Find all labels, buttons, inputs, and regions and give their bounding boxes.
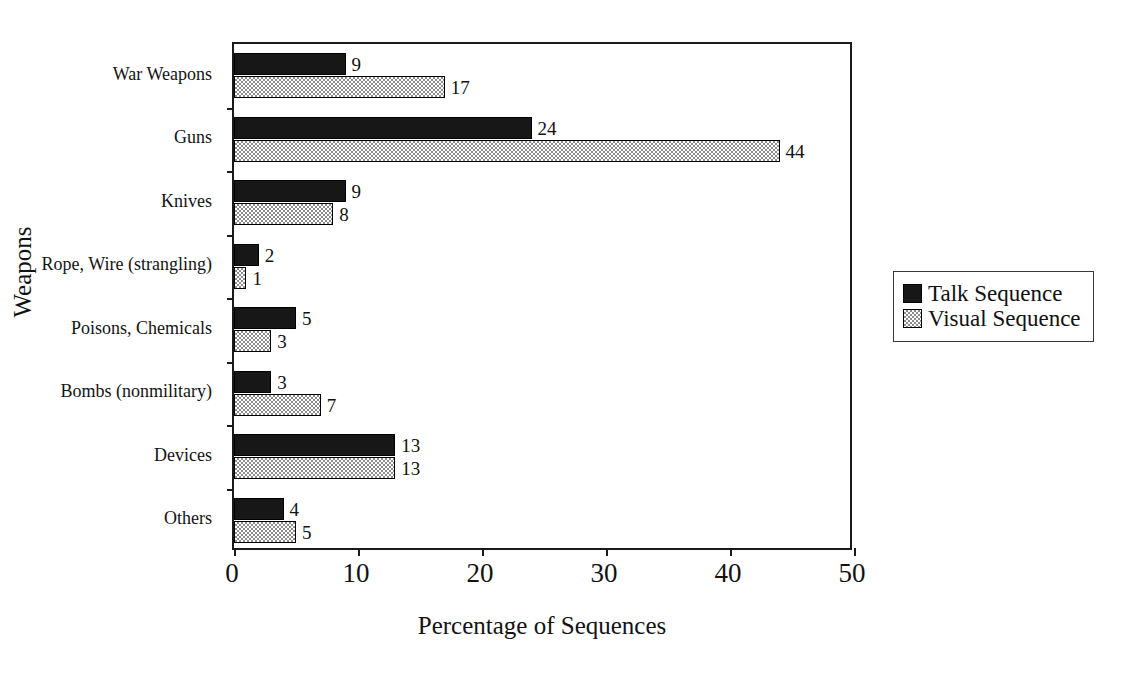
y-axis-tick <box>227 171 234 173</box>
y-axis-category-label: War Weapons <box>113 65 212 83</box>
legend-swatch-talk-sequence <box>903 284 922 303</box>
bar <box>234 76 445 98</box>
bar <box>234 498 284 520</box>
bar-row: 9 <box>234 53 854 75</box>
bar-value-label: 13 <box>395 436 420 455</box>
bar-value-label: 5 <box>296 522 312 541</box>
bar-value-label: 13 <box>395 459 420 478</box>
x-axis-tick <box>606 548 608 556</box>
x-axis-tick <box>234 548 236 556</box>
legend-item: Visual Sequence <box>903 307 1081 330</box>
y-axis-tick <box>227 425 234 427</box>
bar-row: 44 <box>234 140 854 162</box>
bar-value-label: 4 <box>284 499 300 518</box>
x-axis-tick-label: 20 <box>467 560 494 587</box>
bar-value-label: 7 <box>321 395 337 414</box>
bar-value-label: 3 <box>271 332 287 351</box>
y-axis-tick <box>227 235 234 237</box>
y-axis-category-label: Others <box>164 509 212 527</box>
bar-row: 5 <box>234 521 854 543</box>
bar-value-label: 1 <box>246 268 262 287</box>
bar-row: 17 <box>234 76 854 98</box>
bar-value-label: 3 <box>271 372 287 391</box>
x-axis-title: Percentage of Sequences <box>232 612 852 640</box>
bar <box>234 140 780 162</box>
bar-row: 24 <box>234 117 854 139</box>
bar-row: 7 <box>234 394 854 416</box>
y-axis-category-label: Bombs (nonmilitary) <box>61 382 213 400</box>
bar-row: 1 <box>234 267 854 289</box>
bar-value-label: 17 <box>445 78 470 97</box>
bar <box>234 434 395 456</box>
bar <box>234 307 296 329</box>
x-axis-tick <box>854 548 856 556</box>
legend-swatch-visual-sequence <box>903 309 922 328</box>
bar-row: 2 <box>234 244 854 266</box>
legend: Talk SequenceVisual Sequence <box>893 271 1094 342</box>
bar <box>234 457 395 479</box>
x-axis-tick <box>358 548 360 556</box>
bar-chart: Weapons War WeaponsGunsKnivesRope, Wire … <box>0 0 1125 679</box>
legend-label: Visual Sequence <box>928 307 1081 330</box>
x-axis-tick-label: 0 <box>225 560 239 587</box>
scan-artifact <box>0 0 1125 14</box>
bar-row: 4 <box>234 498 854 520</box>
bar-row: 9 <box>234 180 854 202</box>
bar <box>234 117 532 139</box>
bar-value-label: 24 <box>532 118 557 137</box>
plot-area: 917244498215337131345 <box>232 42 852 550</box>
bar-row: 5 <box>234 307 854 329</box>
bar <box>234 330 271 352</box>
legend-label: Talk Sequence <box>928 282 1062 305</box>
bar <box>234 267 246 289</box>
y-axis-tick <box>227 298 234 300</box>
bar-value-label: 9 <box>346 182 362 201</box>
y-axis-category-label: Guns <box>174 128 212 146</box>
x-axis-tick-label: 50 <box>839 560 866 587</box>
y-axis-tick <box>227 362 234 364</box>
bar <box>234 394 321 416</box>
y-axis-category-label: Devices <box>154 446 212 464</box>
y-axis-tick <box>227 108 234 110</box>
x-axis-tick-label: 30 <box>591 560 618 587</box>
legend-item: Talk Sequence <box>903 282 1081 305</box>
x-axis-tick-labels: 01020304050 <box>232 560 852 596</box>
x-axis-tick <box>482 548 484 556</box>
bar <box>234 371 271 393</box>
bar-value-label: 2 <box>259 245 275 264</box>
bar-row: 13 <box>234 434 854 456</box>
bar <box>234 244 259 266</box>
y-axis-category-label: Knives <box>161 192 212 210</box>
bar-value-label: 9 <box>346 55 362 74</box>
y-axis-category-label: Rope, Wire (strangling) <box>42 255 212 273</box>
bar <box>234 53 346 75</box>
x-axis-tick-label: 40 <box>715 560 742 587</box>
bar-row: 13 <box>234 457 854 479</box>
bar <box>234 521 296 543</box>
bar-value-label: 8 <box>333 205 349 224</box>
y-axis-category-labels: War WeaponsGunsKnivesRope, Wire (strangl… <box>0 42 222 550</box>
y-axis-tick <box>227 489 234 491</box>
bar <box>234 180 346 202</box>
bar-row: 8 <box>234 203 854 225</box>
y-axis-category-label: Poisons, Chemicals <box>71 319 212 337</box>
x-axis-tick-label: 10 <box>343 560 370 587</box>
bar <box>234 203 333 225</box>
x-axis-tick <box>730 548 732 556</box>
bar-value-label: 44 <box>780 141 805 160</box>
bar-row: 3 <box>234 330 854 352</box>
bar-row: 3 <box>234 371 854 393</box>
bar-value-label: 5 <box>296 309 312 328</box>
